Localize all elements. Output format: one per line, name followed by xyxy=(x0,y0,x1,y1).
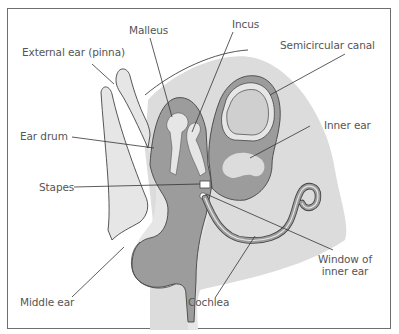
label-cochlea: Cochlea xyxy=(188,296,229,308)
stapes-bone xyxy=(200,181,210,188)
label-window-of-inner-ear: Window of inner ear xyxy=(312,253,378,277)
label-incus: Incus xyxy=(232,18,259,30)
label-stapes: Stapes xyxy=(39,181,74,193)
label-window-line1: Window of xyxy=(312,253,378,265)
label-semicircular-canal: Semicircular canal xyxy=(280,39,375,51)
label-middle-ear: Middle ear xyxy=(20,296,74,308)
label-ear-drum: Ear drum xyxy=(20,130,68,142)
label-window-line2: inner ear xyxy=(312,265,378,277)
label-inner-ear: Inner ear xyxy=(324,119,371,131)
label-malleus: Malleus xyxy=(129,24,168,36)
label-external-ear: External ear (pinna) xyxy=(22,46,125,58)
